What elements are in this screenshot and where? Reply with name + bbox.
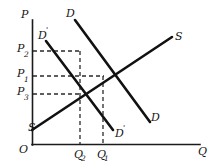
supply-curve-label-bottom: S <box>28 121 36 134</box>
price-tick-p2-subscript: 2 <box>23 50 29 59</box>
price-tick-p2: P 2 <box>16 42 29 59</box>
quantity-tick-q2-subscript: 2 <box>80 154 86 163</box>
demand-shifted-label-bottom: D ' <box>114 123 125 140</box>
demand-shifted-label-top: D ' <box>37 25 48 42</box>
quantity-tick-q1: Q 1 <box>97 148 109 163</box>
demand-curve <box>75 20 150 122</box>
supply-demand-figure: P Q O P 2 P 1 P 3 Q 2 Q 1 S S D D D <box>0 0 211 167</box>
price-tick-p3-subscript: 3 <box>24 93 29 102</box>
demand-shifted-label-bottom-prime: ' <box>123 123 125 132</box>
figure-canvas: P Q O P 2 P 1 P 3 Q 2 Q 1 S S D D D <box>0 0 211 167</box>
price-axis-label: P <box>20 8 29 21</box>
demand-curve-label-bottom: D <box>150 111 160 124</box>
price-tick-p3: P 3 <box>16 85 29 102</box>
origin-label: O <box>19 143 28 156</box>
price-tick-p1: P 1 <box>16 67 29 84</box>
quantity-tick-q1-subscript: 1 <box>104 154 109 163</box>
quantity-axis-label: Q <box>198 145 207 158</box>
quantity-tick-q2: Q 2 <box>74 148 86 163</box>
dashed-guides <box>33 51 104 144</box>
price-tick-p1-subscript: 1 <box>24 75 29 84</box>
demand-curve-label-top: D <box>65 7 75 20</box>
supply-curve-label-top: S <box>175 30 183 43</box>
demand-shifted-label-top-prime: ' <box>46 25 48 34</box>
